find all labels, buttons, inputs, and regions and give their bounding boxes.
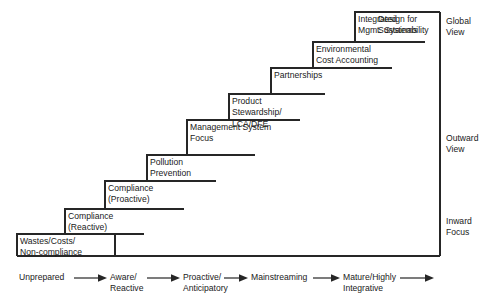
axis-label-proactive-anticipatory: Proactive/ Anticipatory <box>183 272 228 295</box>
side-label-outward-view: Outward View <box>446 133 478 156</box>
side-label-global-view: Global View <box>446 16 471 39</box>
step-label-compliance-reactive: Compliance (Reactive) <box>68 211 113 234</box>
step-label-product-stewardship: Product Stewardship/ LCA/DFE <box>232 96 282 130</box>
step-label-wastes-costs-non-compliance: Wastes/Costs/ Non-compliance <box>20 236 82 259</box>
step-label-partnerships: Partnerships <box>274 70 322 81</box>
step-label-design-for-sustainability: Design for Sustainability <box>378 14 429 37</box>
step-label-environmental-cost-accounting: Environmental Cost Accounting <box>316 44 378 67</box>
axis-label-aware-reactive: Aware/ Reactive <box>110 272 143 295</box>
staircase-lines <box>0 0 492 306</box>
maturity-staircase-diagram: Wastes/Costs/ Non-compliance Compliance … <box>0 0 492 306</box>
axis-label-mainstreaming: Mainstreaming <box>251 272 307 283</box>
step-label-compliance-proactive: Compliance (Proactive) <box>108 183 153 206</box>
axis-label-mature-highly-integrative: Mature/Highly Integrative <box>343 272 396 295</box>
step-label-pollution-prevention: Pollution Prevention <box>150 157 191 180</box>
axis-label-unprepared: Unprepared <box>19 272 64 283</box>
side-label-inward-focus: Inward Focus <box>446 216 472 239</box>
